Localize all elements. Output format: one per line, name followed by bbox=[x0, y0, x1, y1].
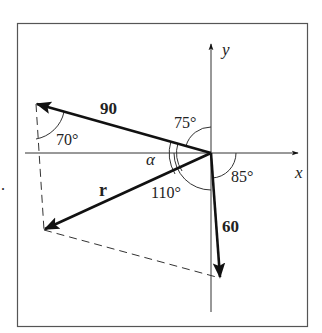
label-angle-70: 70° bbox=[56, 131, 78, 148]
label-angle-75: 75° bbox=[174, 114, 196, 131]
label-angle-85: 85° bbox=[231, 168, 253, 185]
dashed-line-left bbox=[36, 104, 44, 230]
label-90: 90 bbox=[100, 99, 117, 118]
stray-dot: . bbox=[1, 176, 5, 193]
vector-diagram: 90 60 r 70° 75° 85° 110° α y x . bbox=[0, 0, 322, 333]
label-alpha: α bbox=[146, 150, 156, 169]
label-x-axis: x bbox=[294, 163, 303, 182]
label-r: r bbox=[99, 180, 107, 200]
vector-60 bbox=[211, 153, 220, 277]
label-60: 60 bbox=[222, 217, 239, 236]
label-y-axis: y bbox=[220, 40, 230, 59]
dashed-line-bottom bbox=[44, 230, 220, 278]
label-angle-110: 110° bbox=[151, 184, 181, 201]
vector-r bbox=[45, 153, 211, 229]
